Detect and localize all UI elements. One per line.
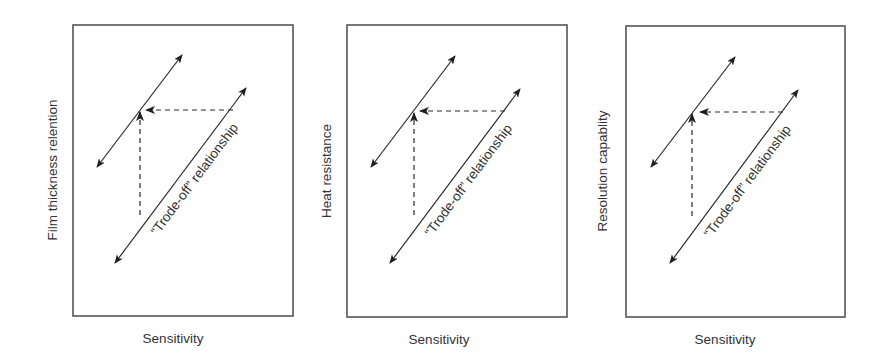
y-axis-label: Film thickness relention [45, 99, 60, 240]
tradeoff-relationship-label: “Trode-off” relationship [701, 122, 794, 240]
upper-double-arrow-line [371, 56, 455, 167]
plot-frame [347, 25, 567, 317]
tradeoff-relationship-label: “Trode-off” relationship [422, 121, 515, 239]
plot-frame [73, 25, 293, 316]
y-axis-label: Resolution capablity [595, 110, 610, 231]
tradeoff-double-arrow-line [390, 89, 520, 263]
x-axis-label: Sensitivity [695, 332, 756, 347]
panel-heat-resistance: Heat resistance Sensitivity “Trode-off” … [319, 25, 567, 347]
tradeoff-relationship-label: “Trode-off” relationship [148, 120, 241, 238]
y-axis-label: Heat resistance [319, 124, 334, 218]
panel-resolution-capability: Resolution capablity Sensitivity “Trode-… [595, 26, 845, 347]
x-axis-label: Sensitivity [143, 331, 204, 346]
tradeoff-double-arrow-line [670, 90, 798, 263]
plot-frame [626, 26, 845, 317]
tradeoff-diagram: Film thickness relention Sensitivity “Tr… [0, 0, 885, 360]
tradeoff-double-arrow-line [115, 88, 246, 263]
upper-double-arrow-line [651, 57, 735, 167]
x-axis-label: Sensitivity [409, 332, 470, 347]
panel-film-thickness-retention: Film thickness relention Sensitivity “Tr… [45, 25, 293, 346]
